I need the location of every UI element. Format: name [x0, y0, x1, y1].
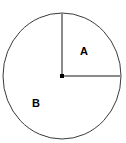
diagram-svg: [0, 0, 126, 143]
sector-label-a: A: [80, 46, 88, 57]
circle-sector-diagram: A B: [0, 0, 126, 143]
sector-label-b: B: [32, 98, 40, 109]
center-point-marker: [60, 74, 64, 78]
